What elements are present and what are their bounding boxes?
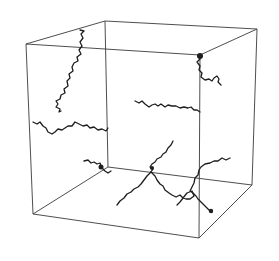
- central-branched-chain-left: [117, 172, 151, 205]
- corner-chain: [197, 55, 221, 85]
- right-branch-chain: [190, 158, 230, 212]
- bottom-left-knot-chain: [84, 160, 111, 173]
- middle-horizontal-chain: [135, 101, 200, 112]
- central-branched-chain-right: [151, 172, 183, 205]
- right-end-knot: [209, 209, 213, 213]
- cube-edge: [105, 21, 257, 29]
- cube-edge: [26, 21, 105, 44]
- cube-edge: [200, 29, 257, 55]
- cube-edge: [33, 214, 199, 238]
- cube-edge: [199, 185, 252, 238]
- cube-edge: [252, 29, 257, 185]
- cube-edge: [108, 167, 252, 185]
- polymer-box-figure: [0, 0, 279, 261]
- upper-left-vertical-chain: [56, 30, 84, 112]
- cube-edge: [26, 44, 33, 214]
- left-knot: [99, 165, 104, 170]
- cube-edge: [26, 44, 200, 55]
- junction-knot: [150, 166, 154, 170]
- left-horizontal-chain: [33, 122, 108, 134]
- cube-edge: [33, 167, 108, 214]
- corner-knot: [197, 53, 203, 59]
- loop-chain: [183, 191, 194, 199]
- cube-edge: [199, 55, 200, 238]
- cube-edge: [105, 21, 108, 167]
- chain-knots: [99, 53, 214, 213]
